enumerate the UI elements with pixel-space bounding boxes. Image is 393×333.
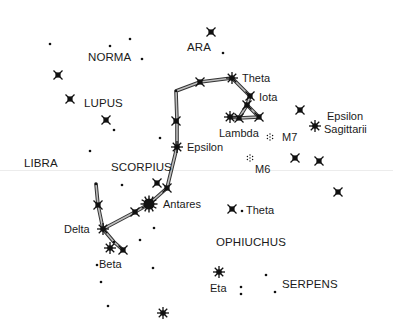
- star-dot-icon: [89, 150, 92, 153]
- star-cluster-icon: [247, 154, 254, 161]
- star-cross-icon: [334, 188, 343, 197]
- star-dot-icon: [265, 274, 268, 277]
- star-dot-icon: [153, 227, 156, 230]
- star-label: Epsilon: [187, 141, 223, 153]
- star-dot-icon: [222, 52, 225, 55]
- constellation-label: SCORPIUS: [111, 161, 172, 173]
- star-dot-icon: [141, 58, 144, 61]
- star-dot-icon: [175, 90, 178, 93]
- star-burst-icon: [104, 242, 116, 254]
- stars-layer: [49, 28, 343, 320]
- star-dot-icon: [139, 239, 142, 242]
- constellation-label: LUPUS: [84, 97, 123, 109]
- star-dot-icon: [113, 129, 116, 132]
- constellation-label: OPHIUCHUS: [216, 236, 286, 248]
- star-dot-icon: [107, 305, 110, 308]
- star-cross-icon: [296, 106, 305, 115]
- star-dot-icon: [96, 264, 99, 267]
- star-cross-icon: [66, 95, 75, 104]
- star-burst-icon: [97, 223, 109, 235]
- star-label: Delta: [64, 223, 90, 235]
- star-dot-icon: [100, 281, 103, 284]
- star-cross-icon: [102, 116, 111, 125]
- star-cross-icon: [228, 205, 237, 214]
- star-dot-icon: [240, 293, 243, 296]
- star-label: Epsilon: [327, 110, 363, 122]
- star-cross-icon: [54, 71, 63, 80]
- star-label: Beta: [99, 258, 122, 270]
- star-dot-icon: [95, 183, 98, 186]
- star-cross-icon: [207, 28, 216, 37]
- star-burst-icon: [226, 72, 238, 84]
- star-dot-icon: [240, 286, 243, 289]
- star-label: Theta: [242, 72, 270, 84]
- star-cross-icon: [291, 154, 300, 163]
- star-label: Iota: [259, 91, 277, 103]
- star-dot-icon: [109, 45, 112, 48]
- star-label: Eta: [210, 282, 227, 294]
- star-label: M7: [282, 131, 297, 143]
- star-cross-icon: [119, 246, 128, 255]
- star-label: M6: [255, 163, 270, 175]
- star-label: Lambda: [219, 127, 259, 139]
- star-label: Antares: [163, 198, 201, 210]
- star-dot-icon: [152, 267, 155, 270]
- star-label: Sagittarii: [324, 123, 367, 135]
- star-dot-icon: [159, 137, 162, 140]
- star-burst-icon: [171, 141, 183, 153]
- star-dot-icon: [49, 43, 52, 46]
- star-cross-icon: [315, 157, 324, 166]
- star-dot-icon: [121, 184, 124, 187]
- star-dot-icon: [241, 210, 244, 213]
- star-cluster-icon: [267, 133, 274, 140]
- star-burst-icon: [157, 307, 169, 319]
- constellation-label: ARA: [187, 41, 211, 53]
- constellation-label: NORMA: [88, 51, 131, 63]
- star-cross-icon: [153, 179, 162, 188]
- star-dot-icon: [129, 38, 132, 41]
- star-label: Theta: [246, 204, 274, 216]
- constellation-label: SERPENS: [282, 278, 338, 290]
- star-burst-icon: [213, 266, 225, 278]
- star-dot-icon: [113, 241, 116, 244]
- star-dot-icon: [274, 291, 277, 294]
- star-burst-icon: [309, 120, 321, 132]
- constellation-label: LIBRA: [24, 157, 58, 169]
- star-burst-icon: [224, 111, 236, 123]
